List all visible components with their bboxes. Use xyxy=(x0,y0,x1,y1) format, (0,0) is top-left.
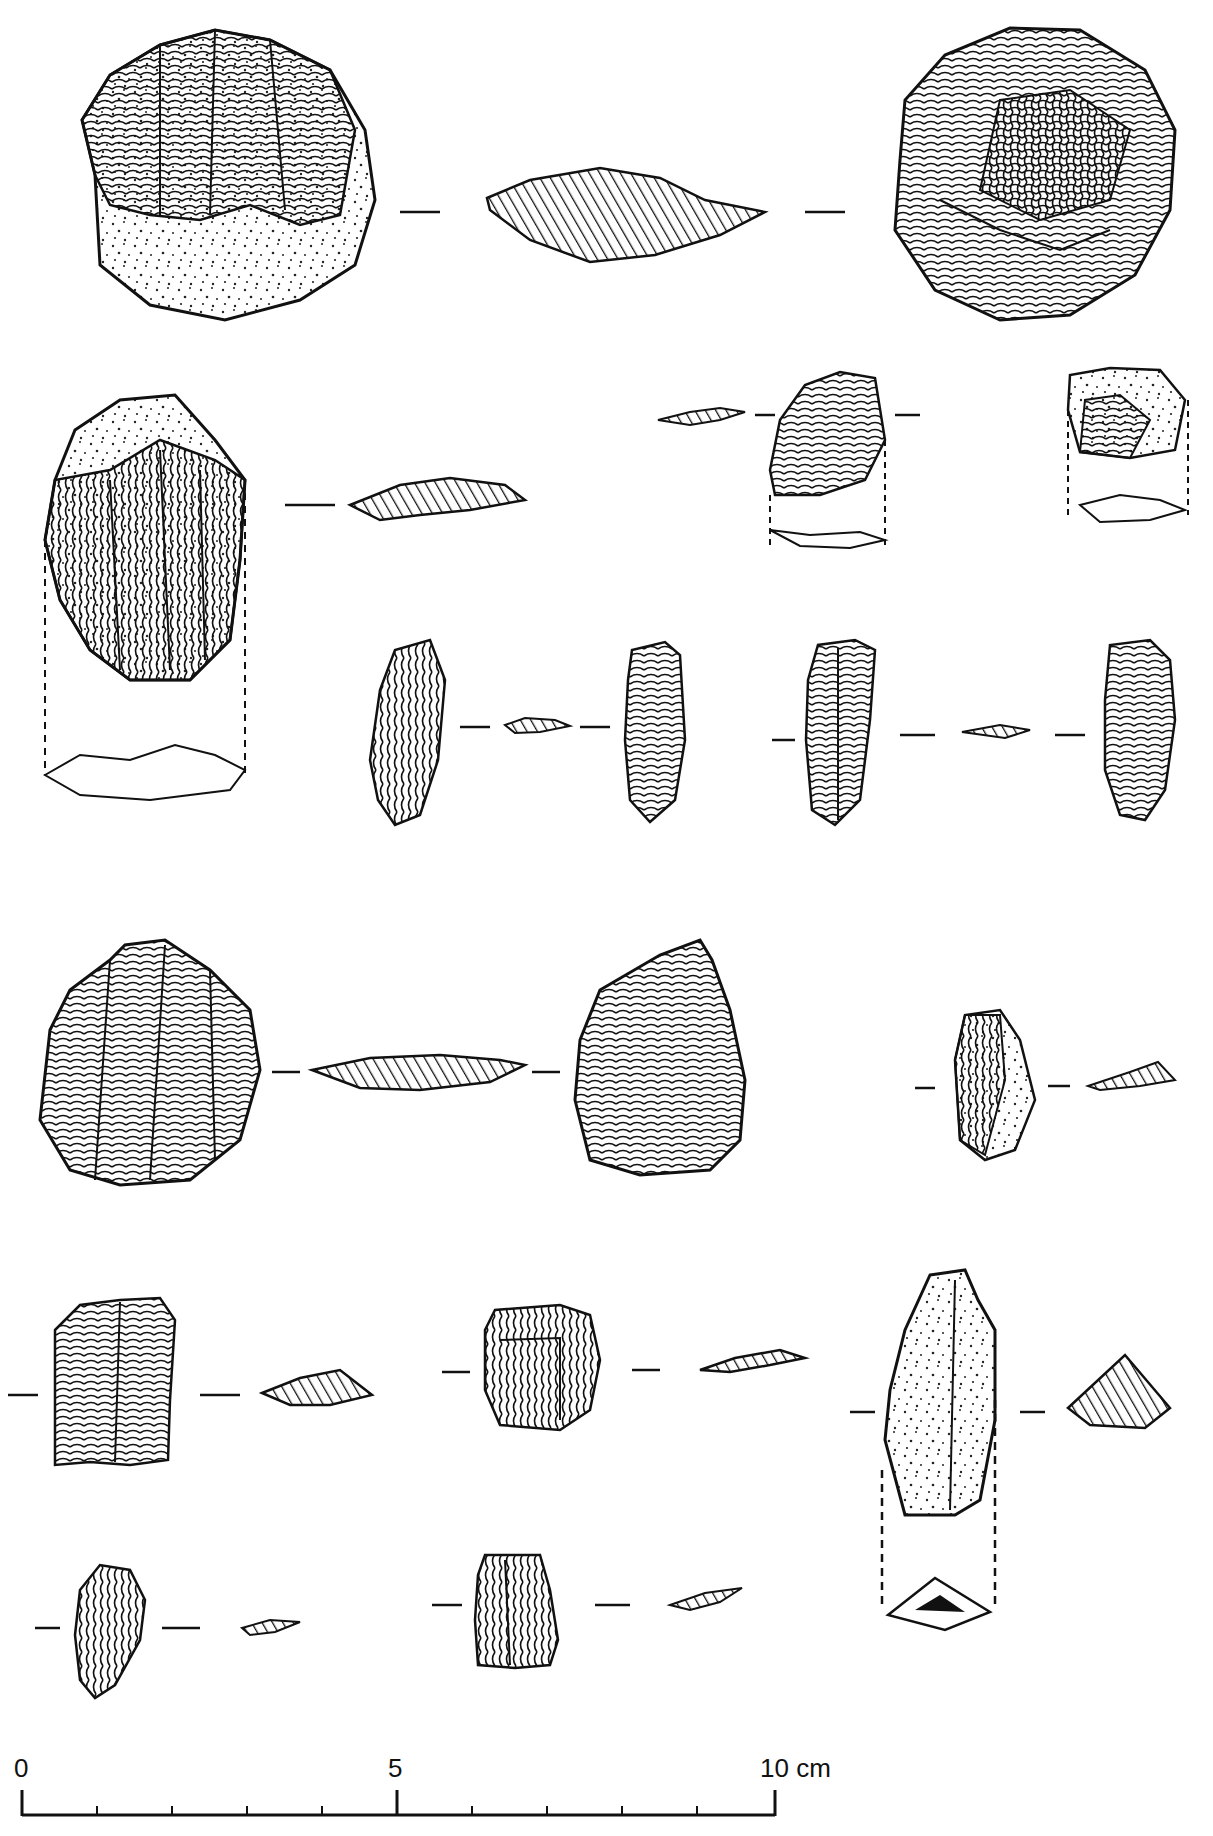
artifact-b-section xyxy=(350,478,525,520)
artifact-d xyxy=(1068,368,1188,522)
artifact-c xyxy=(770,372,885,548)
artifact-e xyxy=(370,640,685,825)
artifact-j xyxy=(442,1305,805,1430)
artifact-a-section xyxy=(487,168,765,262)
artifact-k xyxy=(850,1270,1170,1630)
scale-label-start: 0 xyxy=(14,1755,28,1781)
scale-bar xyxy=(22,1790,775,1816)
artifact-i xyxy=(8,1298,372,1465)
scale-label-end: 10 cm xyxy=(760,1755,831,1781)
artifact-c-section xyxy=(658,408,745,425)
artifact-a-face2 xyxy=(895,28,1175,320)
artifact-b xyxy=(45,395,245,800)
artifact-g xyxy=(40,940,745,1185)
scale-label-mid: 5 xyxy=(388,1755,402,1781)
artifact-m xyxy=(432,1555,742,1668)
lithic-plate xyxy=(0,0,1213,1836)
artifact-h xyxy=(915,1010,1175,1160)
artifact-a-face1 xyxy=(82,30,375,320)
artifact-l xyxy=(35,1565,300,1698)
artifact-f xyxy=(772,640,1175,825)
